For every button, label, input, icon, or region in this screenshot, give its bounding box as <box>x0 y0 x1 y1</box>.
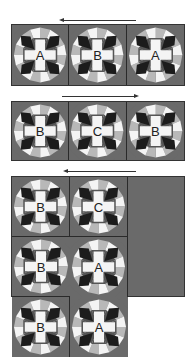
quilt-block: A <box>70 297 128 357</box>
quilt-block: A <box>127 25 184 85</box>
block-label: A <box>94 261 103 274</box>
quilt-block: C <box>70 177 128 237</box>
block-label: B <box>37 260 46 273</box>
block-label: B <box>93 49 102 62</box>
quilt-block: B <box>69 25 126 85</box>
row-2-pressing-arrow-right <box>62 96 136 97</box>
block-row-1: A B A <box>11 24 185 86</box>
arrow-head-icon <box>59 18 64 22</box>
row-3-pressing-arrow-left <box>66 171 136 172</box>
block-label: A <box>95 321 104 334</box>
arrow-head-icon <box>134 94 139 98</box>
quilt-block: B <box>12 102 69 160</box>
block-label: A <box>151 49 160 62</box>
quilt-block: C <box>69 102 126 160</box>
arrow-head-icon <box>63 169 68 173</box>
quilt-block: B <box>12 177 70 237</box>
block-label: A <box>36 49 45 62</box>
block-label: B <box>36 200 45 213</box>
block-label: B <box>151 125 160 138</box>
quilt-block: B <box>12 297 70 357</box>
quilt-block: B <box>12 237 70 297</box>
block-label: C <box>94 200 103 213</box>
quilt-block: B <box>127 102 184 160</box>
block-label: B <box>36 321 45 334</box>
quilt-block: A <box>70 237 128 297</box>
block-row-2: B C B <box>11 101 185 161</box>
row-1-pressing-arrow-left <box>62 20 136 21</box>
quilt-block: A <box>12 25 69 85</box>
block-rows-3-4-joined: B C B A B A <box>11 176 185 297</box>
block-label: B <box>36 125 45 138</box>
block-label: C <box>93 125 102 138</box>
